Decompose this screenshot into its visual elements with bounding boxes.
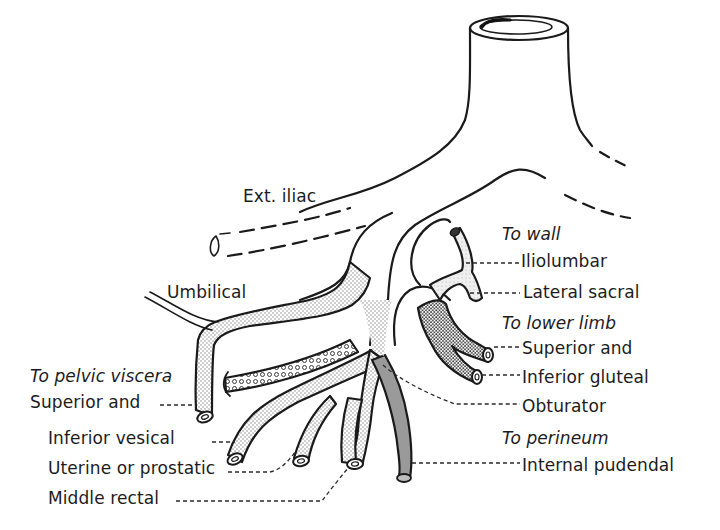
label-lateral-sacral: Lateral sacral <box>523 284 640 301</box>
vessel-drawing <box>0 0 720 530</box>
label-superior-vesical: Superior and <box>30 394 141 411</box>
label-superior-gluteal: Superior and <box>522 340 633 357</box>
label-ext-iliac: Ext. iliac <box>243 188 316 205</box>
label-iliolumbar: Iliolumbar <box>521 253 607 270</box>
label-obturator: Obturator <box>522 398 606 415</box>
common-iliac-trunk <box>300 16 626 212</box>
heading-to-perineum: To perineum <box>502 430 609 447</box>
internal-iliac-diagram: Ext. iliac Umbilical To wall Iliolumbar … <box>0 0 720 530</box>
label-umbilical: Umbilical <box>167 284 246 301</box>
heading-to-lower-limb: To lower limb <box>502 315 616 332</box>
internal-pudendal-artery <box>372 355 411 482</box>
label-internal-pudendal: Internal pudendal <box>522 457 674 474</box>
label-inferior-vesical: Inferior vesical <box>48 430 175 447</box>
external-iliac-artery <box>210 208 365 256</box>
label-middle-rectal: Middle rectal <box>48 490 159 507</box>
heading-to-pelvic-viscera: To pelvic viscera <box>30 368 172 385</box>
label-inferior-gluteal: Inferior gluteal <box>522 369 649 386</box>
label-uterine-prostatic: Uterine or prostatic <box>48 460 215 477</box>
heading-to-wall: To wall <box>502 226 561 243</box>
